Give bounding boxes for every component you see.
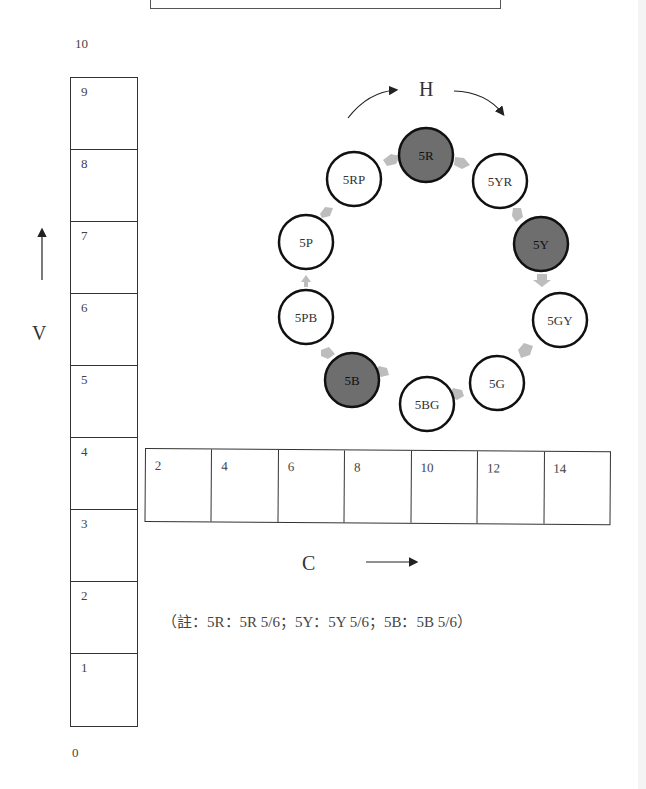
svg-text:5YR: 5YR xyxy=(488,174,513,189)
hue-node-5B: 5B xyxy=(325,353,379,407)
svg-text:5GY: 5GY xyxy=(547,313,573,328)
hue-node-5G: 5G xyxy=(470,356,524,410)
footnote: （註：5R：5R 5/6；5Y：5Y 5/6；5B：5B 5/6） xyxy=(162,610,472,631)
svg-text:5B: 5B xyxy=(344,373,360,388)
svg-text:5BG: 5BG xyxy=(415,397,440,412)
svg-text:5PB: 5PB xyxy=(295,310,318,325)
svg-text:5G: 5G xyxy=(489,376,505,391)
hue-node-5YR: 5YR xyxy=(473,154,527,208)
diagram-graphics: 5R 5YR 5Y 5GY 5G 5BG 5B 5PB 5P 5RP xyxy=(0,0,646,789)
hue-node-5PB: 5PB xyxy=(279,290,333,344)
hue-node-5GY: 5GY xyxy=(533,293,587,347)
svg-text:5Y: 5Y xyxy=(533,237,550,252)
svg-text:5RP: 5RP xyxy=(343,172,365,187)
hue-node-5P: 5P xyxy=(279,215,333,269)
h-axis-arrow-icon xyxy=(348,90,503,118)
hue-node-5Y: 5Y xyxy=(514,217,568,271)
hue-node-5BG: 5BG xyxy=(400,377,454,431)
svg-text:5P: 5P xyxy=(299,235,313,250)
svg-text:5R: 5R xyxy=(418,148,434,163)
hue-node-5R: 5R xyxy=(399,128,453,182)
hue-node-5RP: 5RP xyxy=(327,152,381,206)
